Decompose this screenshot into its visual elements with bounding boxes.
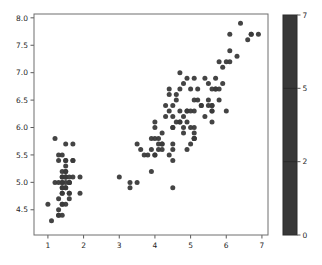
scatter-point: [135, 180, 140, 185]
scatter-point: [217, 98, 222, 103]
scatter-point: [177, 70, 182, 75]
scatter-point: [60, 180, 65, 185]
scatter-point: [227, 32, 232, 37]
scatter-point: [49, 218, 54, 223]
scatter-point: [249, 32, 254, 37]
scatter-point: [192, 136, 197, 141]
y-axis-tick-label: 4.5: [16, 205, 28, 214]
scatter-point: [163, 114, 168, 119]
scatter-point: [170, 142, 175, 147]
scatter-point: [220, 81, 225, 86]
scatter-point: [170, 147, 175, 152]
scatter-point: [185, 76, 190, 81]
scatter-point: [135, 142, 140, 147]
scatter-point: [78, 191, 83, 196]
scatter-point: [177, 109, 182, 114]
scatter-point: [210, 109, 215, 114]
scatter-point: [128, 185, 133, 190]
scatter-point: [213, 87, 218, 92]
scatter-point: [188, 87, 193, 92]
x-axis-tick-label: 4: [153, 241, 158, 250]
scatter-point: [152, 120, 157, 125]
scatter-point: [188, 109, 193, 114]
scatter-point: [217, 59, 222, 64]
scatter-point: [56, 158, 61, 163]
scatter-point: [63, 142, 68, 147]
scatter-point: [152, 152, 157, 157]
scatter-point: [70, 158, 75, 163]
scatter-point: [170, 114, 175, 119]
scatter-point: [202, 76, 207, 81]
scatter-chart: 4.55.05.56.06.57.07.58.012345670257: [0, 0, 322, 265]
scatter-point: [67, 196, 72, 201]
colorbar-tick-label: 5: [303, 84, 308, 93]
scatter-point: [170, 103, 175, 108]
scatter-point: [181, 125, 186, 130]
scatter-point: [195, 98, 200, 103]
scatter-point: [181, 131, 186, 136]
scatter-point: [256, 32, 261, 37]
scatter-point: [67, 191, 72, 196]
scatter-point: [160, 147, 165, 152]
scatter-point: [174, 98, 179, 103]
y-axis-tick-label: 7.0: [16, 68, 28, 77]
scatter-point: [174, 120, 179, 125]
y-axis-tick-label: 5.5: [16, 151, 28, 160]
scatter-point: [227, 48, 232, 53]
x-axis-tick-label: 6: [224, 241, 229, 250]
scatter-point: [181, 114, 186, 119]
scatter-point: [56, 196, 61, 201]
y-axis-tick-label: 6.0: [16, 123, 28, 132]
colorbar-tick-label: 0: [303, 231, 308, 240]
scatter-point: [78, 174, 83, 179]
scatter-point: [63, 169, 68, 174]
scatter-point: [160, 131, 165, 136]
figure: 4.55.05.56.06.57.07.58.012345670257: [0, 0, 322, 265]
scatter-point: [199, 103, 204, 108]
scatter-point: [238, 21, 243, 26]
scatter-point: [63, 158, 68, 163]
y-axis-tick-label: 7.5: [16, 41, 28, 50]
scatter-point: [56, 213, 61, 218]
scatter-point: [195, 87, 200, 92]
scatter-point: [192, 131, 197, 136]
scatter-point: [60, 191, 65, 196]
scatter-point: [117, 174, 122, 179]
x-axis-tick-label: 3: [117, 241, 122, 250]
scatter-point: [206, 98, 211, 103]
scatter-point: [245, 37, 250, 42]
scatter-point: [167, 109, 172, 114]
scatter-point: [224, 59, 229, 64]
scatter-point: [188, 125, 193, 130]
scatter-point: [181, 81, 186, 86]
scatter-point: [206, 103, 211, 108]
scatter-point: [56, 207, 61, 212]
scatter-point: [213, 76, 218, 81]
scatter-point: [192, 76, 197, 81]
y-axis-tick-label: 6.5: [16, 96, 28, 105]
scatter-point: [185, 120, 190, 125]
scatter-point: [152, 125, 157, 130]
x-axis-tick-label: 2: [81, 241, 86, 250]
scatter-point: [167, 87, 172, 92]
scatter-point: [156, 142, 161, 147]
scatter-point: [167, 92, 172, 97]
scatter-point: [206, 81, 211, 86]
scatter-point: [67, 174, 72, 179]
colorbar: [283, 15, 297, 235]
scatter-point: [70, 142, 75, 147]
scatter-point: [63, 163, 68, 168]
scatter-point: [188, 142, 193, 147]
scatter-point: [45, 202, 50, 207]
colorbar-tick-label: 2: [303, 157, 308, 166]
scatter-point: [142, 152, 147, 157]
scatter-point: [220, 65, 225, 70]
scatter-point: [177, 87, 182, 92]
scatter-point: [235, 54, 240, 59]
scatter-point: [210, 120, 215, 125]
scatter-point: [185, 147, 190, 152]
scatter-point: [67, 180, 72, 185]
scatter-point: [163, 103, 168, 108]
scatter-point: [60, 202, 65, 207]
scatter-point: [174, 92, 179, 97]
